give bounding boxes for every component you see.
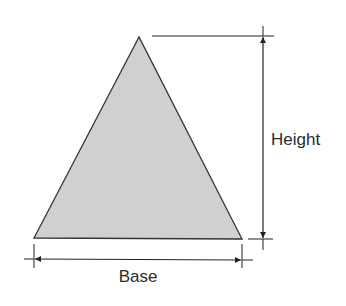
height-label: Height [271,130,320,149]
base-dimension [24,244,253,268]
triangle-shape [34,37,242,239]
base-label: Base [119,267,158,286]
triangle-diagram: Height Base [0,0,346,306]
base-dimension-line [35,259,241,260]
